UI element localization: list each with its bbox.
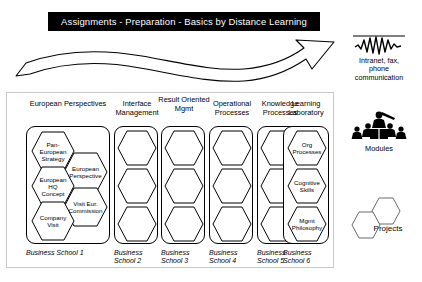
modules-caption: Modules (340, 145, 418, 154)
node-mgmt-philosophy[interactable]: Mgmt Philosophy (287, 206, 327, 242)
title-banner: Assignments - Preparation - Basics by Di… (48, 12, 320, 31)
side-block-projects: Projects (340, 196, 418, 244)
waveform-icon (351, 34, 407, 56)
column-header-result-oriented-mgmt: Result Oriented Mgmt (158, 96, 210, 113)
node-empty[interactable] (212, 130, 252, 166)
node-cognitive-skills[interactable]: Cognitive Skills (287, 168, 327, 204)
node-empty[interactable] (212, 206, 252, 242)
node-empty[interactable] (164, 168, 204, 204)
node-org-processes[interactable]: Org Processes (287, 130, 327, 166)
projects-caption-text: Projects (374, 224, 403, 233)
column-european-perspectives[interactable]: Pan- European Strategy European Perspect… (26, 126, 110, 244)
node-empty[interactable] (117, 130, 157, 166)
communication-caption: Intranet, fax, phone communication (340, 57, 418, 82)
node-empty[interactable] (212, 168, 252, 204)
column-interface-management[interactable] (114, 126, 158, 244)
audience-presenter-icon (349, 110, 409, 144)
node-empty[interactable] (117, 206, 157, 242)
column-header-european-perspectives: European Perspectives (26, 100, 110, 109)
two-hexagons-icon: Projects (343, 196, 415, 244)
column-footer-business-school-3: Business School 3 (161, 249, 209, 265)
column-result-oriented-mgmt[interactable] (161, 126, 205, 244)
page-title: Assignments - Preparation - Basics by Di… (61, 16, 307, 27)
node-empty[interactable] (164, 206, 204, 242)
column-footer-business-school-2: Business School 2 (114, 249, 162, 265)
column-footer-business-school-1: Business School 1 (26, 249, 96, 257)
flow-arrow (12, 36, 338, 82)
node-company-visit[interactable]: Company Visit (31, 201, 75, 241)
column-learning-laboratory[interactable]: Org Processes Cognitive Skills Mgmt Phil… (283, 126, 329, 244)
column-header-learning-laboratory: Learning Laboratory (278, 100, 334, 117)
side-block-modules: Modules (340, 110, 418, 154)
side-block-communication: Intranet, fax, phone communication (340, 34, 418, 82)
node-empty[interactable] (117, 168, 157, 204)
node-empty[interactable] (164, 130, 204, 166)
column-header-interface-management: Interface Management (112, 100, 162, 117)
column-footer-business-school-6: Business School 6 (283, 249, 331, 265)
column-footer-business-school-4: Business School 4 (209, 249, 257, 265)
column-operational-processes[interactable] (209, 126, 253, 244)
